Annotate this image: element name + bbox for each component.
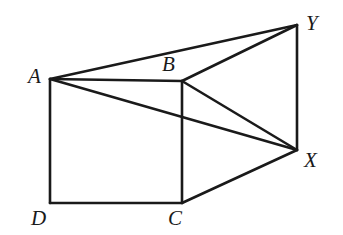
edge-cx (182, 150, 297, 203)
vertex-label-y: Y (306, 13, 318, 34)
edge-ab (50, 79, 182, 81)
edge-by (182, 25, 297, 81)
vertex-label-d: D (31, 208, 46, 229)
geometry-figure: ABCDXY (0, 0, 343, 235)
vertex-label-a: A (28, 66, 41, 87)
vertex-label-b: B (162, 54, 175, 75)
vertex-label-c: C (168, 208, 182, 229)
edge-bx (182, 81, 297, 150)
vertex-label-x: X (304, 150, 317, 171)
edge-ax (50, 79, 297, 150)
figure-canvas (0, 0, 343, 235)
